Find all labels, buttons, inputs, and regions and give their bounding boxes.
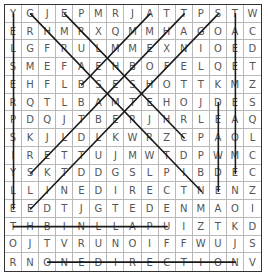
grid-cell[interactable]: M — [227, 147, 244, 165]
grid-cell[interactable]: S — [5, 129, 22, 147]
grid-cell[interactable]: W — [142, 147, 159, 165]
grid-cell[interactable]: P — [193, 147, 210, 165]
grid-cell[interactable]: O — [159, 76, 176, 94]
grid-cell[interactable]: T — [193, 76, 210, 94]
grid-cell[interactable]: B — [73, 76, 90, 94]
grid-cell[interactable]: R — [176, 111, 193, 129]
grid-cell[interactable]: R — [73, 23, 90, 41]
grid-cell[interactable]: F — [39, 76, 56, 94]
grid-cell[interactable]: Q — [22, 94, 39, 112]
grid-cell[interactable]: L — [142, 165, 159, 183]
grid-cell[interactable]: L — [193, 58, 210, 76]
grid-cell[interactable]: Z — [193, 218, 210, 236]
grid-cell[interactable]: D — [210, 94, 227, 112]
grid-cell[interactable]: L — [193, 111, 210, 129]
grid-cell[interactable]: S — [244, 236, 261, 254]
grid-cell[interactable]: E — [5, 23, 22, 41]
grid-cell[interactable]: E — [73, 182, 90, 200]
grid-cell[interactable]: N — [56, 253, 73, 271]
grid-cell[interactable]: D — [90, 182, 107, 200]
grid-cell[interactable]: T — [56, 147, 73, 165]
grid-cell[interactable]: I — [176, 165, 193, 183]
grid-cell[interactable]: T — [244, 58, 261, 76]
grid-cell[interactable]: H — [159, 111, 176, 129]
grid-cell[interactable]: R — [56, 40, 73, 58]
grid-cell[interactable]: E — [227, 40, 244, 58]
grid-cell[interactable]: O — [39, 253, 56, 271]
grid-cell[interactable]: T — [124, 94, 141, 112]
grid-cell[interactable]: L — [5, 182, 22, 200]
grid-cell[interactable]: D — [210, 165, 227, 183]
grid-cell[interactable]: O — [142, 58, 159, 76]
grid-cell[interactable]: A — [124, 218, 141, 236]
grid-cell[interactable]: S — [90, 76, 107, 94]
grid-cell[interactable]: I — [142, 236, 159, 254]
grid-cell[interactable]: H — [142, 76, 159, 94]
grid-cell[interactable]: M — [90, 5, 107, 23]
grid-cell[interactable]: F — [159, 58, 176, 76]
grid-cell[interactable]: B — [124, 58, 141, 76]
grid-cell[interactable]: D — [176, 147, 193, 165]
grid-cell[interactable]: S — [210, 5, 227, 23]
grid-cell[interactable]: M — [142, 23, 159, 41]
grid-cell[interactable]: K — [39, 165, 56, 183]
grid-cell[interactable]: E — [107, 111, 124, 129]
grid-cell[interactable]: B — [193, 165, 210, 183]
grid-cell[interactable]: B — [39, 218, 56, 236]
grid-cell[interactable]: E — [22, 200, 39, 218]
grid-cell[interactable]: A — [227, 23, 244, 41]
grid-cell[interactable]: P — [142, 218, 159, 236]
grid-cell[interactable]: M — [107, 40, 124, 58]
grid-cell[interactable]: C — [176, 129, 193, 147]
grid-cell[interactable]: E — [39, 147, 56, 165]
grid-cell[interactable]: R — [22, 147, 39, 165]
grid-cell[interactable]: G — [22, 40, 39, 58]
grid-cell[interactable]: O — [210, 40, 227, 58]
grid-cell[interactable]: D — [244, 218, 261, 236]
grid-cell[interactable]: Q — [39, 111, 56, 129]
grid-cell[interactable]: F — [39, 40, 56, 58]
grid-cell[interactable]: J — [39, 129, 56, 147]
grid-cell[interactable]: N — [227, 253, 244, 271]
grid-cell[interactable]: M — [56, 23, 73, 41]
grid-cell[interactable]: R — [124, 182, 141, 200]
grid-cell[interactable]: N — [73, 218, 90, 236]
grid-cell[interactable]: T — [210, 218, 227, 236]
grid-cell[interactable]: D — [90, 253, 107, 271]
grid-cell[interactable]: C — [244, 165, 261, 183]
grid-cell[interactable]: O — [227, 129, 244, 147]
grid-cell[interactable]: C — [244, 147, 261, 165]
grid-cell[interactable]: P — [5, 111, 22, 129]
grid-cell[interactable]: T — [39, 94, 56, 112]
grid-cell[interactable]: X — [90, 23, 107, 41]
grid-cell[interactable]: U — [73, 40, 90, 58]
grid-cell[interactable]: G — [90, 200, 107, 218]
grid-cell[interactable]: R — [5, 94, 22, 112]
grid-cell[interactable]: D — [244, 40, 261, 58]
grid-cell[interactable]: I — [176, 218, 193, 236]
grid-cell[interactable]: M — [124, 147, 141, 165]
grid-cell[interactable]: T — [56, 200, 73, 218]
grid-cell[interactable]: N — [227, 182, 244, 200]
grid-cell[interactable]: N — [56, 182, 73, 200]
grid-cell[interactable]: F — [159, 236, 176, 254]
grid-cell[interactable]: U — [90, 147, 107, 165]
grid-cell[interactable]: D — [90, 165, 107, 183]
grid-cell[interactable]: D — [22, 111, 39, 129]
grid-cell[interactable]: J — [142, 111, 159, 129]
grid-cell[interactable]: I — [56, 218, 73, 236]
grid-cell[interactable]: T — [176, 253, 193, 271]
grid-cell[interactable]: Q — [210, 58, 227, 76]
grid-cell[interactable]: M — [124, 40, 141, 58]
grid-cell[interactable]: P — [159, 165, 176, 183]
grid-cell[interactable]: L — [107, 218, 124, 236]
grid-cell[interactable]: T — [227, 5, 244, 23]
grid-cell[interactable]: H — [107, 58, 124, 76]
grid-cell[interactable]: T — [159, 147, 176, 165]
grid-cell[interactable]: I — [5, 147, 22, 165]
grid-cell[interactable]: D — [73, 129, 90, 147]
grid-cell[interactable]: J — [227, 236, 244, 254]
grid-cell[interactable]: C — [159, 253, 176, 271]
grid-cell[interactable]: Z — [244, 76, 261, 94]
grid-cell[interactable]: W — [193, 236, 210, 254]
